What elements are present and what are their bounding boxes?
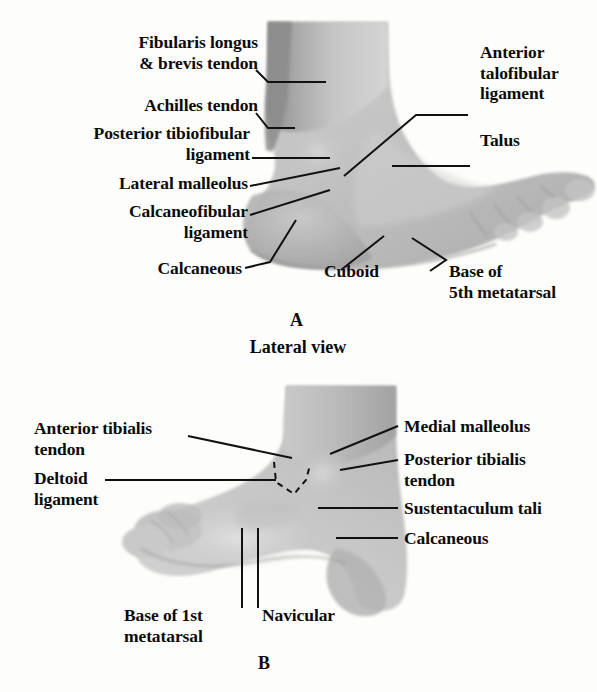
anatomy-figure-page: Fibularis longus & brevis tendon Achille… (0, 0, 597, 692)
label-calcaneofibular-ligament: Calcaneofibular ligament (14, 201, 248, 242)
label-anterior-tibialis-tendon: Anterior tibialis tendon (34, 418, 214, 459)
label-base-1st-metatarsal: Base of 1st metatarsal (124, 605, 244, 646)
label-talus: Talus (480, 130, 590, 151)
label-medial-malleolus: Medial malleolus (404, 416, 597, 437)
label-sustentaculum-tali: Sustentaculum tali (404, 498, 597, 519)
label-navicular: Navicular (262, 605, 392, 626)
label-deltoid-ligament: Deltoid ligament (34, 468, 184, 509)
label-achilles-tendon: Achilles tendon (14, 95, 258, 116)
label-fibularis-longus-brevis-tendon: Fibularis longus & brevis tendon (14, 32, 258, 73)
panel-a-caption-letter: A (290, 310, 303, 331)
label-lateral-malleolus: Lateral malleolus (14, 173, 248, 194)
panel-a-lateral-view: Fibularis longus & brevis tendon Achille… (0, 0, 597, 370)
label-cuboid: Cuboid (324, 261, 414, 282)
panel-a-caption-text: Lateral view (228, 337, 368, 358)
label-base-5th-metatarsal: Base of 5th metatarsal (449, 261, 597, 302)
label-calcaneous-a: Calcaneous (14, 258, 242, 279)
label-calcaneous-b: Calcaneous (404, 528, 597, 549)
label-anterior-talofibular-ligament: Anterior talofibular ligament (480, 42, 597, 104)
panel-b-medial-view: Anterior tibialis tendon Deltoid ligamen… (0, 370, 597, 692)
label-posterior-tibialis-tendon: Posterior tibialis tendon (404, 449, 597, 490)
label-posterior-tibiofibular-ligament: Posterior tibiofibular ligament (0, 123, 250, 164)
panel-b-caption-letter: B (258, 653, 270, 674)
